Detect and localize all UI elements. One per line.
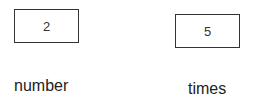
number-value: 2 — [43, 19, 50, 34]
times-label: times — [188, 80, 226, 98]
number-label: number — [14, 77, 68, 95]
times-value: 5 — [204, 24, 211, 39]
times-box[interactable]: 5 — [175, 14, 240, 48]
number-box[interactable]: 2 — [14, 9, 79, 43]
